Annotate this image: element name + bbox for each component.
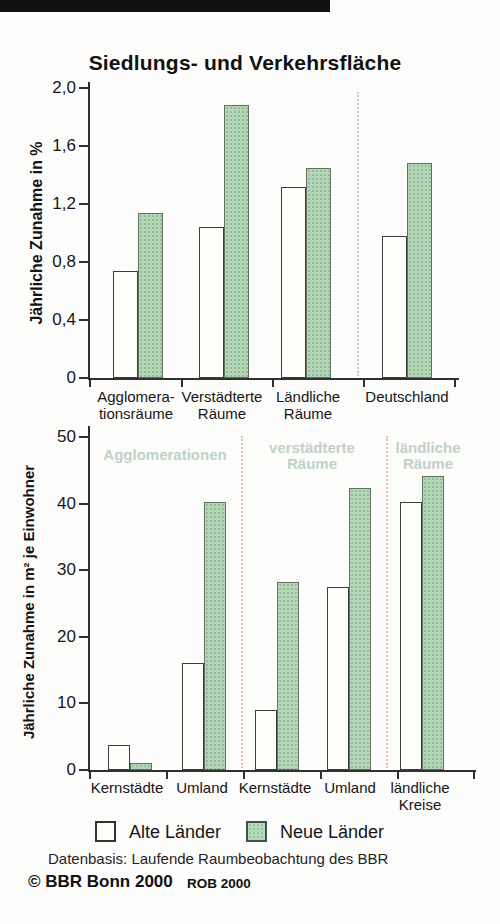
y-tick	[79, 769, 88, 771]
legend-label-alte-laender: Alte Länder	[129, 822, 221, 843]
region-header-label: ländlicheRäume	[395, 440, 460, 472]
legend-swatch-alte-laender	[95, 821, 116, 842]
rob-code: ROB 2000	[187, 876, 251, 891]
x-category-label: Umland	[324, 779, 376, 796]
legend-swatch-neue-laender	[246, 821, 267, 842]
x-axis-line	[88, 770, 476, 772]
x-tick	[473, 772, 475, 779]
bar-alte-laender-cat3	[327, 587, 349, 770]
bar-alte-laender-cat0	[113, 271, 138, 378]
data-source-note: Datenbasis: Laufende Raumbeobachtung des…	[48, 850, 388, 867]
x-tick	[243, 772, 245, 779]
x-category-label: ländlicheKreise	[390, 779, 449, 813]
x-category-line: Kernstädte	[91, 779, 164, 796]
group-separator-line	[241, 436, 243, 768]
y-tick	[79, 436, 88, 438]
x-category-line: Kernstädte	[239, 779, 312, 796]
bar-neue-laender-cat4	[422, 476, 444, 770]
region-header-line: Räume	[269, 456, 355, 472]
copyright-note: © BBR Bonn 2000	[28, 872, 173, 892]
x-tick	[320, 772, 322, 779]
region-header-label: Agglomerationen	[103, 447, 226, 463]
region-header-line: verstädterte	[269, 440, 355, 456]
bar-neue-laender-cat3	[407, 163, 432, 378]
group-separator-line	[386, 436, 388, 768]
region-header-line: Agglomerationen	[103, 447, 226, 463]
x-tick	[89, 772, 91, 779]
bar-alte-laender-cat3	[382, 236, 407, 378]
region-header-label: verstädterteRäume	[269, 440, 355, 472]
x-category-line: Umland	[176, 779, 228, 796]
x-tick	[166, 772, 168, 779]
bar-neue-laender-cat1	[204, 502, 226, 770]
bar-alte-laender-cat2	[255, 710, 277, 770]
y-tick-label: 0	[24, 760, 76, 780]
legend-label-neue-laender: Neue Länder	[280, 822, 384, 843]
x-category-line: ländliche	[390, 779, 449, 796]
bar-alte-laender-cat4	[400, 502, 422, 770]
x-category-line: Umland	[324, 779, 376, 796]
bottom-bar-chart: 50403020100AgglomerationenverstädterteRä…	[0, 0, 500, 924]
scanned-chart-page: Siedlungs- und Verkehrsfläche 2,01,61,20…	[0, 0, 500, 924]
x-tick	[397, 772, 399, 779]
bar-neue-laender-cat0	[130, 763, 152, 770]
y-tick	[79, 503, 88, 505]
y-axis-title: Jährliche Zunahme in m² je Einwohner	[20, 442, 40, 762]
bar-neue-laender-cat0	[138, 213, 163, 378]
x-axis-line	[88, 378, 459, 380]
bar-neue-laender-cat2	[277, 582, 299, 770]
y-tick	[79, 569, 88, 571]
bar-alte-laender-cat0	[108, 745, 130, 770]
bar-alte-laender-cat1	[199, 227, 224, 378]
bar-neue-laender-cat2	[306, 168, 331, 378]
x-category-label: Umland	[176, 779, 228, 796]
bar-neue-laender-cat1	[224, 105, 249, 378]
region-header-line: ländliche	[395, 440, 460, 456]
bar-alte-laender-cat2	[281, 187, 306, 378]
region-header-line: Räume	[395, 456, 460, 472]
y-tick	[79, 636, 88, 638]
x-category-line: Kreise	[390, 796, 449, 813]
bar-alte-laender-cat1	[182, 663, 204, 770]
x-category-label: Kernstädte	[91, 779, 164, 796]
y-axis-line	[88, 426, 90, 772]
x-category-label: Kernstädte	[239, 779, 312, 796]
bar-neue-laender-cat3	[349, 488, 371, 770]
y-tick	[79, 702, 88, 704]
